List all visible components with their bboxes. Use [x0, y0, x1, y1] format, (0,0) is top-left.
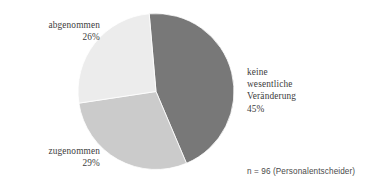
pie-chart: abgenommen 26% zugenommen 29% keinewesen…	[0, 0, 367, 191]
pie-label-abgenommen-name: abgenommen	[8, 19, 100, 31]
pie-label-abgenommen-value: 26%	[8, 31, 100, 43]
pie-label-keine-name: keinewesentlicheVeränderung	[247, 66, 359, 103]
pie-label-zugenommen: zugenommen 29%	[8, 145, 100, 169]
pie-slice-group	[78, 14, 234, 170]
pie-label-keine-value: 45%	[247, 103, 359, 115]
pie-label-abgenommen: abgenommen 26%	[8, 19, 100, 43]
chart-footnote: n = 96 (Personalentscheider)	[247, 167, 355, 176]
pie-label-zugenommen-name: zugenommen	[8, 145, 100, 157]
pie-label-zugenommen-value: 29%	[8, 157, 100, 169]
pie-label-keine-wesentliche-veraenderung: keinewesentlicheVeränderung 45%	[247, 66, 359, 115]
